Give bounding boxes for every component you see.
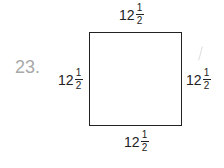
denominator: 2 <box>204 81 210 91</box>
denominator: 2 <box>76 81 82 91</box>
side-label-top: 12 1 2 <box>119 3 144 26</box>
fraction: 1 2 <box>141 130 149 153</box>
faint-pencil-mark <box>198 47 206 62</box>
side-label-left: 12 1 2 <box>58 68 83 91</box>
fraction: 1 2 <box>203 68 211 91</box>
whole-number: 12 <box>58 72 74 88</box>
side-label-bottom: 12 1 2 <box>124 130 149 153</box>
whole-number: 12 <box>119 7 135 23</box>
numerator: 1 <box>137 3 143 13</box>
whole-number: 12 <box>186 72 202 88</box>
fraction: 1 2 <box>75 68 83 91</box>
square-shape <box>89 32 182 126</box>
numerator: 1 <box>76 68 82 78</box>
numerator: 1 <box>204 68 210 78</box>
problem-number: 23. <box>15 57 40 78</box>
fraction: 1 2 <box>136 3 144 26</box>
numerator: 1 <box>142 130 148 140</box>
denominator: 2 <box>137 16 143 26</box>
whole-number: 12 <box>124 134 140 150</box>
denominator: 2 <box>142 143 148 153</box>
side-label-right: 12 1 2 <box>186 68 211 91</box>
